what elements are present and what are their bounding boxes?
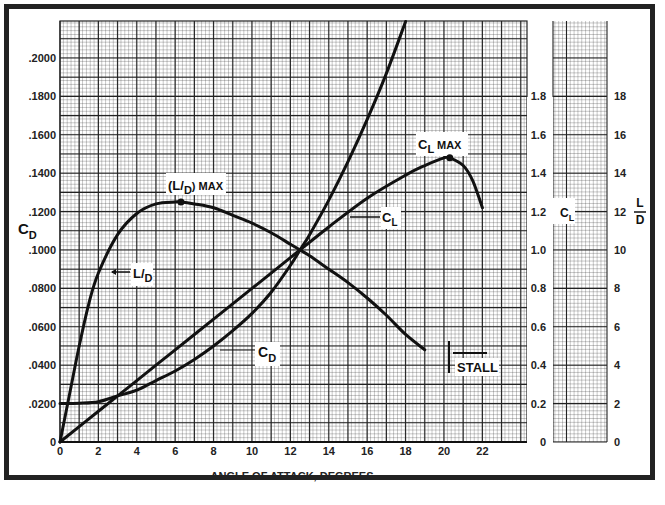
stall-label: STALL (457, 360, 498, 375)
svg-text:.1800: .1800 (28, 90, 56, 102)
svg-text:12: 12 (284, 445, 296, 457)
svg-text:.2000: .2000 (28, 52, 56, 64)
svg-text:4: 4 (614, 359, 621, 371)
svg-text:0.2: 0.2 (531, 398, 546, 410)
svg-text:12: 12 (614, 206, 626, 218)
svg-text:0: 0 (614, 436, 620, 448)
svg-text:.0200: .0200 (28, 398, 56, 410)
svg-text:18: 18 (614, 90, 626, 102)
svg-text:16: 16 (361, 445, 373, 457)
right-strip-grid (527, 21, 607, 447)
svg-text:.0800: .0800 (28, 282, 56, 294)
svg-text:10: 10 (246, 445, 258, 457)
svg-text:0.4: 0.4 (531, 359, 547, 371)
svg-text:0.6: 0.6 (531, 321, 546, 333)
svg-text:6: 6 (172, 445, 178, 457)
svg-text:4: 4 (134, 445, 141, 457)
svg-text:8: 8 (614, 282, 620, 294)
aero-chart: 0.0200.0400.0600.0800.1000.1200.1400.160… (0, 0, 665, 505)
svg-text:1.6: 1.6 (531, 129, 546, 141)
svg-text:2: 2 (95, 445, 101, 457)
svg-text:.1200: .1200 (28, 206, 56, 218)
svg-text:20: 20 (438, 445, 450, 457)
svg-text:10: 10 (614, 244, 626, 256)
svg-text:0: 0 (50, 436, 56, 448)
svg-text:14: 14 (614, 167, 627, 179)
svg-text:0: 0 (57, 445, 63, 457)
svg-text:1.4: 1.4 (531, 167, 547, 179)
main-grid (60, 21, 527, 442)
svg-text:.1000: .1000 (28, 244, 56, 256)
svg-text:8: 8 (211, 445, 217, 457)
svg-text:14: 14 (323, 445, 336, 457)
svg-text:.0600: .0600 (28, 321, 56, 333)
svg-text:2: 2 (614, 398, 620, 410)
svg-text:0.8: 0.8 (531, 282, 546, 294)
svg-text:.1600: .1600 (28, 129, 56, 141)
svg-text:1.2: 1.2 (531, 206, 546, 218)
svg-text:1.0: 1.0 (531, 244, 546, 256)
svg-text:1.8: 1.8 (531, 90, 546, 102)
svg-text:.0400: .0400 (28, 359, 56, 371)
svg-text:.1400: .1400 (28, 167, 56, 179)
svg-text:22: 22 (476, 445, 488, 457)
svg-text:6: 6 (614, 321, 620, 333)
svg-text:0: 0 (540, 436, 546, 448)
svg-text:18: 18 (399, 445, 411, 457)
svg-text:16: 16 (614, 129, 626, 141)
